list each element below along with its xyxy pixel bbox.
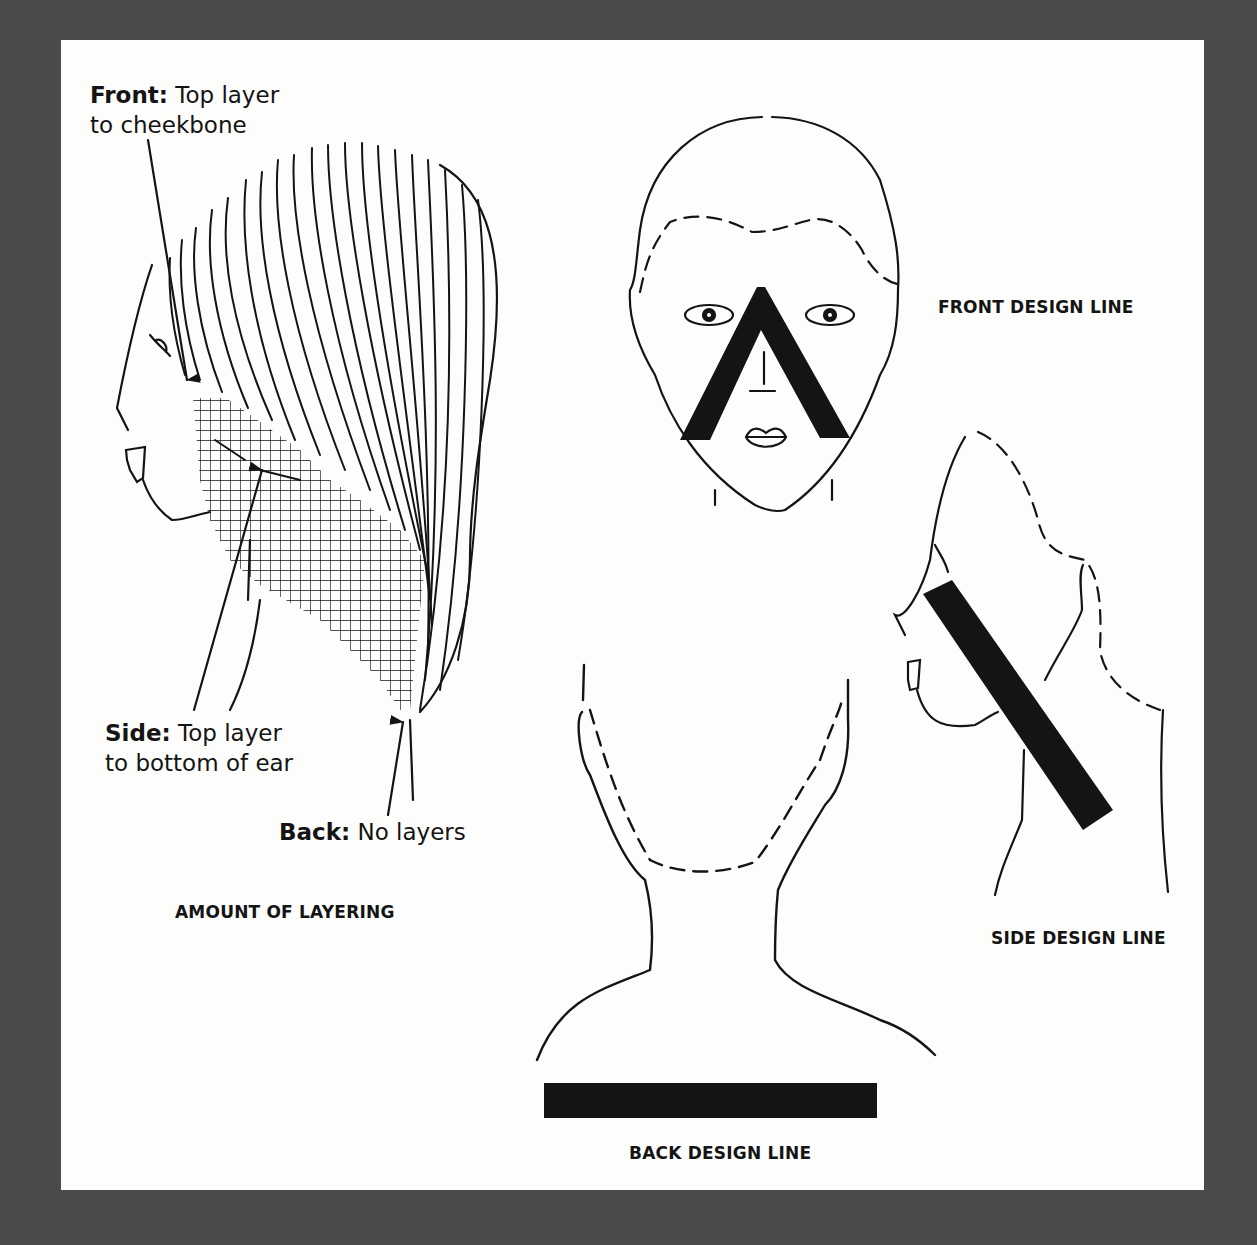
back-neck-illustration — [537, 665, 935, 1118]
front-face-illustration — [630, 117, 899, 511]
side-callout: Side: Top layer to bottom of ear — [105, 718, 293, 778]
side-ear — [1045, 565, 1083, 680]
back-design-line-shape — [544, 1083, 877, 1118]
haircut-diagram — [0, 0, 1257, 1245]
layered-crosshatch-region — [193, 398, 425, 710]
front-callout-line2: to cheekbone — [90, 112, 247, 138]
profile-layering-illustration — [117, 140, 497, 815]
back-callout-line1: No layers — [358, 819, 466, 845]
side-callout-term: Side: — [105, 720, 171, 746]
front-callout-line1: Top layer — [175, 82, 279, 108]
side-neck-back — [1161, 710, 1168, 892]
front-callout: Front: Top layer to cheekbone — [90, 80, 279, 140]
side-design-line-shape — [923, 580, 1113, 830]
front-design-line-caption: FRONT DESIGN LINE — [938, 297, 1134, 317]
side-callout-line2: to bottom of ear — [105, 750, 293, 776]
profile-face-outline — [117, 265, 152, 430]
nose-icon — [750, 352, 775, 391]
back-callout-arrow — [388, 722, 403, 815]
front-callout-term: Front: — [90, 82, 168, 108]
side-profile-illustration — [895, 432, 1168, 895]
lips-icon — [746, 429, 786, 447]
profile-eye-icon — [150, 335, 170, 356]
side-eye-icon — [935, 545, 948, 572]
side-lips-icon — [908, 660, 920, 690]
side-design-line-caption: SIDE DESIGN LINE — [991, 928, 1166, 948]
back-hairline-dashed — [590, 700, 842, 872]
back-design-line-caption: BACK DESIGN LINE — [629, 1143, 811, 1163]
front-neck — [715, 480, 832, 505]
amount-of-layering-caption: AMOUNT OF LAYERING — [175, 902, 395, 922]
front-hairline-dashed — [640, 217, 898, 292]
side-callout-line1: Top layer — [178, 720, 282, 746]
side-neck-front — [995, 750, 1024, 895]
back-right-outline — [775, 680, 935, 1055]
profile-chin — [143, 480, 210, 520]
side-chin — [917, 690, 998, 726]
neck-back-line — [410, 720, 413, 800]
back-callout-term: Back: — [279, 819, 350, 845]
profile-lips-icon — [126, 447, 145, 482]
back-callout: Back: No layers — [279, 817, 466, 847]
